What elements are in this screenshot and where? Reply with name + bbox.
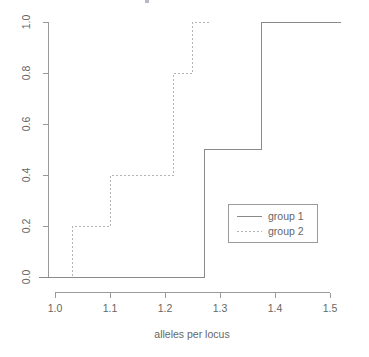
y-tick-label-4: 0.8 (20, 66, 32, 81)
ecdf-plot-figure: 0.0 0.2 0.4 0.6 0.8 1.0 1.0 1.1 1.2 1.3 … (0, 0, 369, 357)
x-tick-label-1: 1.1 (103, 302, 118, 314)
y-tick-label-0: 0.0 (20, 270, 32, 285)
x-tick-label-3: 1.3 (213, 302, 228, 314)
y-axis: 0.0 0.2 0.4 0.6 0.8 1.0 (20, 15, 49, 285)
y-tick-label-5: 1.0 (20, 15, 32, 30)
cropped-title-remnant (145, 0, 149, 3)
legend-label-group-1: group 1 (268, 210, 304, 222)
legend-label-group-2: group 2 (268, 225, 304, 237)
x-axis-title: alleles per locus (154, 328, 229, 340)
y-tick-label-3: 0.6 (20, 117, 32, 132)
plot-canvas: 0.0 0.2 0.4 0.6 0.8 1.0 1.0 1.1 1.2 1.3 … (0, 0, 369, 357)
x-tick-label-5: 1.5 (323, 302, 338, 314)
series-group-2-path (50, 22, 210, 277)
y-tick-label-1: 0.2 (20, 219, 32, 234)
y-tick-label-2: 0.4 (20, 168, 32, 183)
x-tick-label-4: 1.4 (268, 302, 283, 314)
x-tick-label-0: 1.0 (48, 302, 63, 314)
legend[interactable]: group 1 group 2 (229, 205, 318, 243)
x-axis: 1.0 1.1 1.2 1.3 1.4 1.5 alleles per locu… (48, 293, 338, 341)
x-tick-label-2: 1.2 (158, 302, 173, 314)
